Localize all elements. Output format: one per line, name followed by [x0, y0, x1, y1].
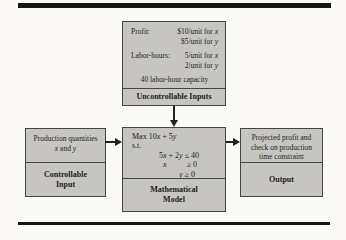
capacity-line: 40 labor-hour capacity	[131, 75, 218, 85]
bottom-rule-bar	[18, 222, 330, 225]
labor-label: Labor-hours:	[131, 51, 170, 61]
output-line-3: time constraint	[241, 152, 322, 162]
controllable-input-content: Production quantities x and y	[26, 129, 105, 164]
profit-label: Profit:	[131, 27, 150, 37]
subject-to-line: s.t.	[132, 141, 225, 150]
output-content: Projected profit and check on production…	[241, 129, 322, 163]
constraint-1-line: 5x + 2y ≤ 40	[159, 151, 225, 160]
mathematical-model-content: Max 10x + 5y s.t. 5x + 2y ≤ 40 x≥ 0 y ≥ …	[123, 128, 225, 179]
mathematical-model-caption: Mathematical Model	[123, 178, 225, 211]
output-caption: Output	[241, 162, 322, 196]
controllable-input-box: Production quantities x and y Controllab…	[25, 128, 106, 197]
labor-row: Labor-hours: 5/unit for x	[131, 51, 218, 61]
production-quantities-line: Production quantities	[26, 134, 105, 144]
arrow-right-icon	[233, 138, 240, 146]
uncontrollable-inputs-content: Profit: $10/unit for x $5/unit for y Lab…	[123, 22, 225, 85]
variables-line: x and y	[26, 144, 105, 154]
uncontrollable-inputs-caption: Uncontrollable Inputs	[123, 88, 225, 105]
arrow-right-icon	[115, 138, 122, 146]
profit-value-y: $5/unit for y	[181, 37, 218, 47]
labor-value-y: 2/unit for y	[185, 61, 218, 71]
labor-row-2: 2/unit for y	[131, 61, 218, 71]
output-line-2: check on production	[241, 143, 322, 153]
profit-row: Profit: $10/unit for x	[131, 27, 218, 37]
output-box: Projected profit and check on production…	[240, 128, 323, 197]
profit-row-2: $5/unit for y	[131, 37, 218, 47]
mathematical-model-box: Max 10x + 5y s.t. 5x + 2y ≤ 40 x≥ 0 y ≥ …	[122, 127, 226, 212]
uncontrollable-inputs-box: Profit: $10/unit for x $5/unit for y Lab…	[122, 21, 226, 106]
top-rule-bar	[18, 3, 331, 8]
arrow-down-icon	[170, 120, 178, 127]
constraint-2-line: x≥ 0	[163, 160, 225, 169]
objective-function-line: Max 10x + 5y	[132, 132, 225, 141]
profit-value-x: $10/unit for x	[177, 27, 218, 37]
labor-value-x: 5/unit for x	[185, 51, 218, 61]
controllable-input-caption: Controllable Input	[26, 162, 105, 196]
output-line-1: Projected profit and	[241, 133, 322, 143]
